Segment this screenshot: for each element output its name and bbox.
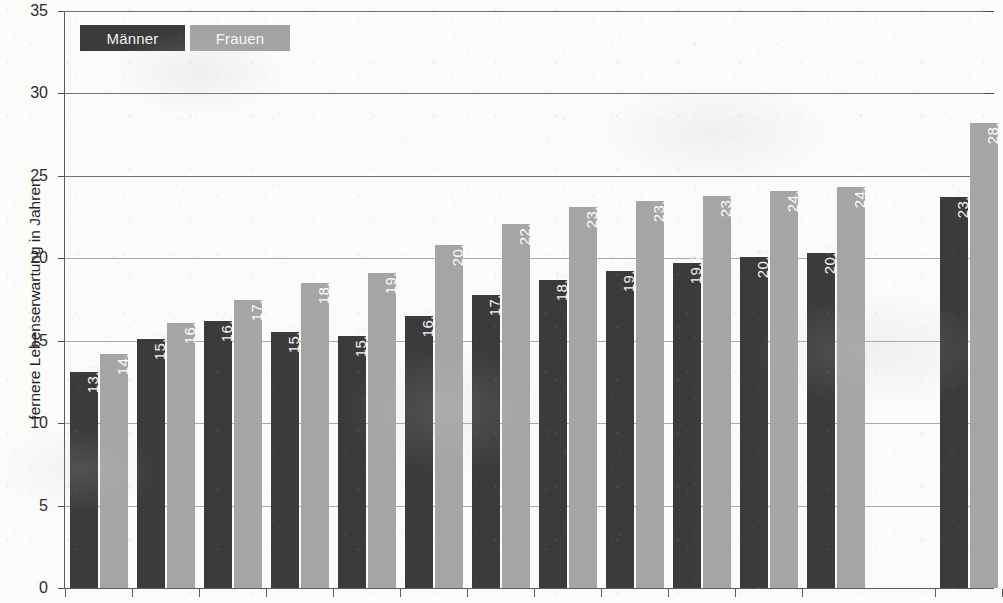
bar-maenner-13: 23,7 <box>940 197 968 588</box>
bar-value-label: 16,5 <box>419 307 436 337</box>
bar-value-label: 16,1 <box>181 313 198 343</box>
bar-value-label: 23,5 <box>650 191 667 221</box>
bar-frauen-6: 20,8 <box>435 245 463 588</box>
bar-maenner-10: 19,7 <box>673 263 701 588</box>
bar-value-label: 23,8 <box>717 186 734 216</box>
y-tick-mark-right-35 <box>985 11 994 12</box>
bar-value-label: 15,5 <box>285 323 302 353</box>
legend-item-maenner[interactable]: Männer <box>80 25 185 51</box>
bar-maenner-5: 15,3 <box>338 336 366 588</box>
bar-value-label: 18,7 <box>553 271 570 301</box>
bar-frauen-12: 24,3 <box>837 187 865 588</box>
x-tick-2 <box>132 589 133 597</box>
bar-frauen-7: 22,1 <box>502 224 530 588</box>
bar-value-label: 17,8 <box>486 285 503 315</box>
x-tick-3 <box>199 589 200 597</box>
bar-value-label: 23,1 <box>583 198 600 228</box>
bar-value-label: 28,2 <box>984 114 1001 144</box>
bar-frauen-9: 23,5 <box>636 201 664 588</box>
y-tick-label-25: 25 <box>4 168 48 184</box>
y-tick-label-20: 20 <box>4 250 48 266</box>
bar-value-label: 20,1 <box>754 247 771 277</box>
bar-frauen-1: 14,2 <box>100 354 128 588</box>
bar-maenner-9: 19,2 <box>606 271 634 588</box>
gridline-30 <box>64 93 994 94</box>
bar-value-label: 19,2 <box>620 262 637 292</box>
bar-maenner-7: 17,8 <box>472 295 500 588</box>
x-tick-13 <box>935 589 936 597</box>
y-tick-label-35: 35 <box>4 3 48 19</box>
bar-frauen-8: 23,1 <box>569 207 597 588</box>
bar-maenner-6: 16,5 <box>405 316 433 588</box>
x-tick-4 <box>266 589 267 597</box>
y-tick-label-0: 0 <box>4 580 48 596</box>
bar-frauen-2: 16,1 <box>167 323 195 588</box>
y-tick-mark-right-30 <box>985 93 994 94</box>
y-tick-label-15: 15 <box>4 333 48 349</box>
x-tick-12 <box>802 589 803 597</box>
bar-value-label: 20,8 <box>449 236 466 266</box>
x-tick-7 <box>467 589 468 597</box>
bar-value-label: 24,1 <box>784 182 801 212</box>
bar-value-label: 13,1 <box>84 363 101 393</box>
bar-value-label: 15,1 <box>151 330 168 360</box>
bar-value-label: 23,7 <box>954 188 971 218</box>
bar-maenner-12: 20,3 <box>807 253 835 588</box>
x-tick-8 <box>534 589 535 597</box>
x-tick-10 <box>668 589 669 597</box>
bar-frauen-13: 28,2 <box>970 123 998 588</box>
bar-value-label: 19,7 <box>687 254 704 284</box>
bar-maenner-2: 15,1 <box>137 339 165 588</box>
x-tick-1 <box>65 589 66 597</box>
bar-value-label: 20,3 <box>821 244 838 274</box>
y-axis-title: fernere Lebenserwartung in Jahren <box>26 139 44 459</box>
bar-value-label: 22,1 <box>516 214 533 244</box>
x-tick-5 <box>333 589 334 597</box>
bar-frauen-5: 19,1 <box>368 273 396 588</box>
bar-maenner-8: 18,7 <box>539 280 567 588</box>
bar-maenner-11: 20,1 <box>740 257 768 588</box>
bar-maenner-1: 13,1 <box>70 372 98 588</box>
bar-frauen-4: 18,5 <box>301 283 329 588</box>
bar-frauen-10: 23,8 <box>703 196 731 588</box>
bar-value-label: 17,5 <box>248 290 265 320</box>
chart-legend: Männer Frauen <box>80 25 290 51</box>
bar-frauen-11: 24,1 <box>770 191 798 588</box>
x-tick-11 <box>735 589 736 597</box>
bar-frauen-3: 17,5 <box>234 300 262 589</box>
bar-value-label: 16,2 <box>218 312 235 342</box>
x-tick-9 <box>601 589 602 597</box>
x-axis-line <box>64 588 994 589</box>
bar-value-label: 15,3 <box>352 327 369 357</box>
gridline-25 <box>64 176 994 177</box>
bar-value-label: 14,2 <box>114 345 131 375</box>
y-axis-line <box>64 11 65 588</box>
gridline-35 <box>64 11 994 12</box>
x-tick-6 <box>400 589 401 597</box>
y-tick-label-10: 10 <box>4 415 48 431</box>
bar-maenner-3: 16,2 <box>204 321 232 588</box>
y-tick-label-5: 5 <box>4 498 48 514</box>
bar-value-label: 18,5 <box>315 274 332 304</box>
legend-item-frauen[interactable]: Frauen <box>190 25 290 51</box>
bar-value-label: 24,3 <box>851 178 868 208</box>
bar-value-label: 19,1 <box>382 264 399 294</box>
y-tick-label-30: 30 <box>4 85 48 101</box>
bar-maenner-4: 15,5 <box>271 332 299 588</box>
